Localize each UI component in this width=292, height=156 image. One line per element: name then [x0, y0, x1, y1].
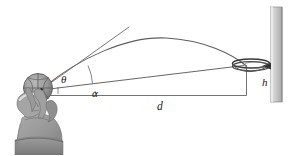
backboard	[271, 7, 283, 102]
line-of-sight-to-hoop	[41, 66, 244, 91]
label-distance-d: d	[157, 100, 163, 112]
launch-direction-line	[42, 27, 130, 90]
diagram-canvas: θ α d h	[0, 0, 292, 155]
parabolic-trajectory-arc	[42, 38, 247, 89]
label-alpha: α	[92, 87, 98, 99]
label-height-h: h	[262, 76, 268, 88]
basketball-player-silhouette	[15, 88, 63, 156]
basketball-hoop-rim	[233, 59, 272, 72]
physics-diagram-figure: θ α d h	[0, 0, 292, 155]
label-theta: θ	[61, 73, 67, 85]
